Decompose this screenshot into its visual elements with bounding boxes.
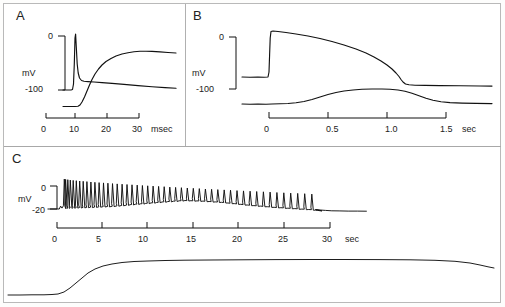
- panel-c-y-scalebar: [50, 186, 57, 209]
- panel-c-x-scalebar: [57, 222, 330, 228]
- panel-c-spike-train: [48, 179, 367, 211]
- figure-canvas: A mV 0 -100 0 10 20 30 msec B mV 0 -100 …: [0, 0, 505, 307]
- panel-c-traces: [0, 0, 505, 307]
- panel-c-bottom-trace: [8, 260, 494, 296]
- panel-c-spike-train-path: [48, 179, 367, 211]
